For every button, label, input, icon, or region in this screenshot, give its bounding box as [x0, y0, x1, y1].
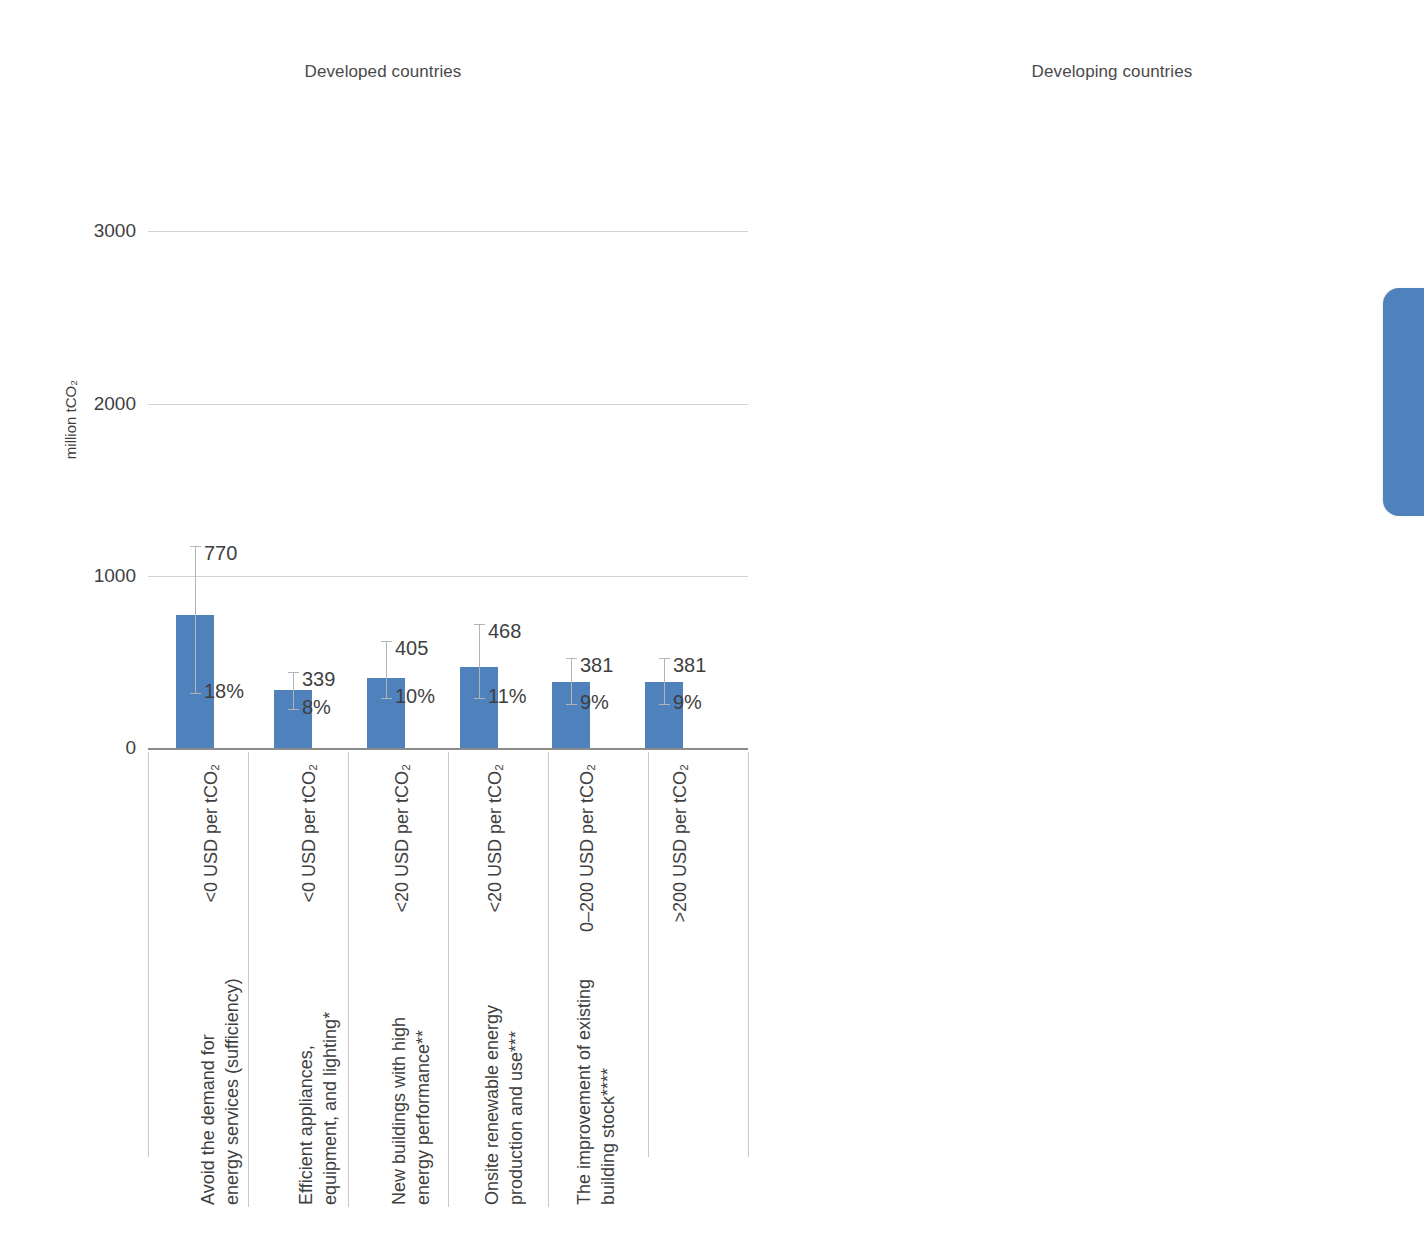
error-bar [571, 658, 572, 704]
category-price-label: <20 USD per tCO₂ [392, 764, 413, 913]
bar-percent-label: 10% [395, 685, 435, 708]
bar-value-label: 339 [302, 668, 335, 691]
error-bar-cap-lower [288, 709, 299, 710]
error-bar-cap-lower [381, 698, 392, 699]
side-tab-handle[interactable] [1383, 288, 1424, 516]
category-price-label: <0 USD per tCO₂ [299, 764, 320, 903]
chart-panel-developing: Developing countries million tCO₂ 010002… [770, 0, 1410, 1242]
plot-area-developed: 010002000300077018%3398%40510%46811%3819… [148, 202, 748, 748]
error-bar-cap-upper [190, 546, 201, 547]
gridline-1000 [148, 576, 748, 577]
y-tick-label-0: 0 [125, 737, 136, 759]
category-price-label: <20 USD per tCO₂ [485, 764, 506, 913]
category-cell: >200 USD per tCO₂ [648, 750, 748, 1205]
error-bar [195, 546, 196, 693]
error-bar [664, 658, 665, 704]
y-tick-label-1000: 1000 [94, 565, 136, 587]
bar-percent-label: 9% [673, 691, 702, 714]
gridline-2000 [148, 404, 748, 405]
category-group-label: Efficient appliances, equipment, and lig… [295, 938, 343, 1205]
error-bar-cap-upper [474, 624, 485, 625]
error-bar-cap-upper [659, 658, 670, 659]
category-block-border-right [748, 752, 749, 1157]
category-group-label: Avoid the demand for energy services (su… [197, 938, 245, 1205]
bar-value-label: 381 [580, 654, 613, 677]
category-price-label: <0 USD per tCO₂ [201, 764, 222, 903]
bar-percent-label: 9% [580, 691, 609, 714]
group-divider [348, 752, 349, 1207]
gridline-3000 [148, 231, 748, 232]
bar-value-label: 468 [488, 620, 521, 643]
error-bar-cap-upper [381, 641, 392, 642]
bar-value-label: 405 [395, 637, 428, 660]
group-divider [448, 752, 449, 1207]
group-divider [248, 752, 249, 1207]
bar-percent-label: 18% [204, 680, 244, 703]
bar-percent-label: 8% [302, 696, 331, 719]
chart-panel-developed: Developed countries million tCO₂ 0100020… [0, 0, 790, 1242]
category-group-label: The improvement of existing building sto… [573, 962, 621, 1205]
category-price-label: 0–200 USD per tCO₂ [577, 764, 598, 932]
bar-value-label: 381 [673, 654, 706, 677]
group-divider [548, 752, 549, 1207]
y-tick-label-3000: 3000 [94, 220, 136, 242]
category-price-label: >200 USD per tCO₂ [670, 764, 691, 923]
error-bar-cap-upper [566, 658, 577, 659]
error-bar-cap-lower [190, 693, 201, 694]
error-bar-cap-upper [288, 672, 299, 673]
category-group-label: Onsite renewable energy production and u… [481, 938, 529, 1205]
error-bar-cap-lower [474, 698, 485, 699]
panel-title-developed: Developed countries [0, 62, 778, 82]
bar-value-label: 770 [204, 542, 237, 565]
category-label-area-developed: <0 USD per tCO₂<0 USD per tCO₂<20 USD pe… [148, 750, 748, 1205]
y-axis-label-developed: million tCO₂ [62, 380, 79, 459]
y-tick-label-2000: 2000 [94, 393, 136, 415]
error-bar-cap-lower [659, 704, 670, 705]
bar-percent-label: 11% [488, 685, 527, 708]
category-divider [648, 752, 649, 1157]
panel-title-developing: Developing countries [792, 62, 1424, 82]
category-block-border-left [148, 752, 149, 1157]
error-bar [479, 624, 480, 698]
error-bar [386, 641, 387, 698]
category-group-label: New buildings with high energy performan… [388, 938, 436, 1205]
error-bar-cap-lower [566, 704, 577, 705]
error-bar [293, 672, 294, 709]
